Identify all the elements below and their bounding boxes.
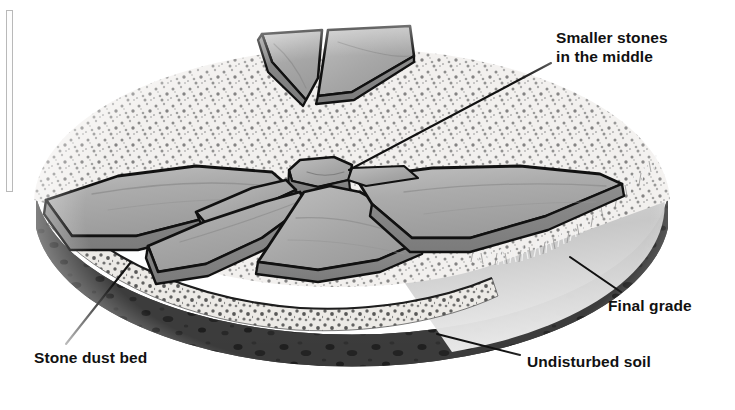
illustration-stage: Smaller stones in the middle Final grade… xyxy=(0,0,735,410)
label-smaller-stones: Smaller stones in the middle xyxy=(556,28,668,66)
label-final-grade: Final grade xyxy=(608,296,692,315)
label-stone-dust-bed: Stone dust bed xyxy=(34,348,147,367)
scan-artifact-bar xyxy=(6,10,13,192)
label-undisturbed-soil: Undisturbed soil xyxy=(527,352,651,371)
